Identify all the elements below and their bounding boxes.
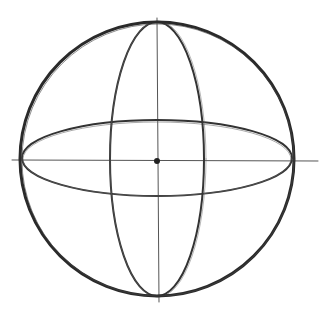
sphere-sketch [0, 0, 320, 311]
horizontal-axis-line [12, 160, 318, 161]
center-point [154, 158, 160, 164]
